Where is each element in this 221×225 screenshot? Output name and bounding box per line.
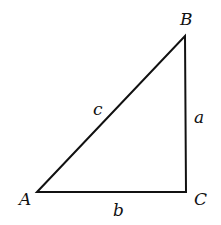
vertex-label-c: C — [194, 189, 207, 209]
vertex-label-a: A — [17, 189, 31, 209]
triangle-shape — [37, 36, 186, 192]
side-label-a: a — [194, 107, 204, 127]
vertex-label-b: B — [179, 9, 193, 29]
side-label-b: b — [113, 200, 124, 220]
side-label-c: c — [93, 99, 103, 119]
right-triangle-diagram: B A C a b c — [0, 0, 221, 225]
